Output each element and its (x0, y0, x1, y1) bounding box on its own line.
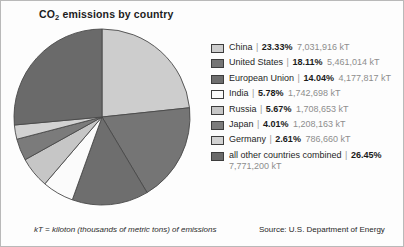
legend-percent: 5.67% (266, 104, 292, 114)
page-title: CO2 emissions by country (39, 8, 173, 20)
legend-country-name: Japan (229, 119, 254, 129)
legend-separator: | (283, 57, 292, 67)
legend-separator: | (257, 104, 266, 114)
legend-color-swatch (211, 121, 224, 130)
legend-color-swatch (211, 44, 224, 53)
legend-value: 7,031,916 kT (292, 42, 349, 52)
legend-item[interactable]: Russia | 5.67% 1,708,653 kT (211, 104, 403, 115)
legend-value: 1,208,163 kT (288, 119, 345, 129)
legend-color-swatch (211, 106, 224, 115)
pie-slice-group (14, 29, 190, 205)
legend-country-name: European Union (229, 73, 294, 83)
legend-separator: | (249, 88, 258, 98)
legend-item[interactable]: European Union | 14.04% 4,177,817 kT (211, 73, 403, 84)
legend-color-swatch (211, 90, 224, 99)
legend-item[interactable]: India | 5.78% 1,742,698 kT (211, 88, 403, 99)
legend-percent: 5.78% (258, 88, 284, 98)
legend-percent: 26.45% (351, 150, 382, 160)
legend-percent: 2.61% (275, 134, 301, 144)
legend-item[interactable]: United States | 18.11% 5,461,014 kT (211, 57, 403, 68)
legend-separator: | (254, 119, 263, 129)
legend-value: 1,742,698 kT (283, 88, 340, 98)
legend-color-swatch (211, 152, 224, 161)
pie-chart (12, 27, 192, 207)
legend-item[interactable]: Germany | 2.61% 786,660 kT (211, 134, 403, 145)
legend-color-swatch (211, 75, 224, 84)
legend-value: 4,177,817 kT (334, 73, 391, 83)
legend-country-name: India (229, 88, 249, 98)
legend-separator: | (294, 73, 303, 83)
legend-color-swatch (211, 136, 224, 145)
legend-label: China | 23.33% 7,031,916 kT (229, 42, 349, 53)
legend-percent: 4.01% (263, 119, 289, 129)
legend-country-name: Russia (229, 104, 257, 114)
legend-percent: 14.04% (303, 73, 334, 83)
legend-label: all other countries combined | 26.45% 7,… (229, 150, 403, 172)
legend-country-name: United States (229, 57, 283, 67)
chart-card: CO2 emissions by country China | 23.33% … (0, 0, 404, 247)
legend-value: 5,461,014 kT (322, 57, 379, 67)
source-footnote: Source: U.S. Department of Energy (259, 225, 385, 234)
legend-country-name: all other countries combined (229, 150, 342, 160)
legend-country-name: Germany (229, 134, 266, 144)
legend-label: Russia | 5.67% 1,708,653 kT (229, 104, 348, 115)
legend-color-swatch (211, 59, 224, 68)
title-subscript: 2 (55, 13, 59, 22)
title-suffix: emissions by country (59, 8, 173, 20)
legend-label: European Union | 14.04% 4,177,817 kT (229, 73, 391, 84)
legend-separator: | (266, 134, 275, 144)
pie-slice[interactable] (14, 29, 102, 125)
unit-footnote: kT = kiloton (thousands of metric tons) … (34, 225, 217, 234)
legend-label: India | 5.78% 1,742,698 kT (229, 88, 340, 99)
pie-slice[interactable] (102, 29, 190, 117)
legend-label: United States | 18.11% 5,461,014 kT (229, 57, 379, 68)
title-prefix: CO (39, 8, 55, 20)
pie-chart-svg (12, 27, 192, 207)
legend-country-name: China (229, 42, 253, 52)
legend: China | 23.33% 7,031,916 kTUnited States… (211, 42, 403, 176)
legend-separator: | (253, 42, 262, 52)
legend-label: Japan | 4.01% 1,208,163 kT (229, 119, 345, 130)
legend-value: 1,708,653 kT (291, 104, 348, 114)
legend-value: 786,660 kT (301, 134, 351, 144)
legend-percent: 18.11% (292, 57, 322, 67)
legend-label: Germany | 2.61% 786,660 kT (229, 134, 350, 145)
legend-item[interactable]: Japan | 4.01% 1,208,163 kT (211, 119, 403, 130)
legend-item[interactable]: all other countries combined | 26.45% 7,… (211, 150, 403, 172)
legend-percent: 23.33% (262, 42, 293, 52)
legend-separator: | (342, 150, 351, 160)
legend-item[interactable]: China | 23.33% 7,031,916 kT (211, 42, 403, 53)
